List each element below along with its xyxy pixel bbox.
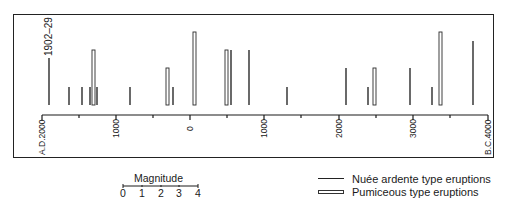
bar <box>373 68 376 105</box>
single-line-swatch-icon <box>318 178 344 179</box>
bar <box>166 68 169 105</box>
legend-label-nuee: Nuée ardente type eruptions <box>352 172 491 186</box>
tick-label-0: 0 <box>185 126 195 131</box>
magnitude-tick-2: 2 <box>158 187 164 199</box>
tick-label-bc4000: B.C.4000 <box>483 119 493 155</box>
magnitude-scale: Magnitude 0 1 2 3 4 <box>120 172 201 199</box>
legend-label-pumiceous: Pumiceous type eruptions <box>352 185 479 199</box>
tick-label-bc2000: 2000 <box>334 119 344 138</box>
tick-label-ad1000: 1000 <box>111 119 121 138</box>
magnitude-tick-3: 3 <box>176 187 182 199</box>
legend-item-nuee: Nuée ardente type eruptions <box>318 172 491 185</box>
magnitude-title: Magnitude <box>134 172 183 184</box>
legend-item-pumiceous: Pumiceous type eruptions <box>318 185 491 198</box>
bar <box>92 50 95 105</box>
series-pumiceous <box>92 32 442 105</box>
bar <box>225 50 228 105</box>
x-axis-tick-labels: A.D.2000 1000 0 1000 2000 3000 B.C.4000 <box>37 119 493 155</box>
tick-label-ad2000: A.D.2000 <box>37 119 47 155</box>
magnitude-tick-4: 4 <box>195 187 201 199</box>
bar <box>193 32 196 105</box>
magnitude-tick-1: 1 <box>139 187 145 199</box>
double-line-swatch-icon <box>318 190 344 194</box>
tick-label-bc3000: 3000 <box>408 119 418 138</box>
magnitude-tick-0: 0 <box>120 187 126 199</box>
annotation-1902-29: 1902–29 <box>43 17 54 56</box>
legend: Nuée ardente type eruptions Pumiceous ty… <box>318 172 491 198</box>
series-nuee-ardente <box>49 41 473 105</box>
bar <box>439 32 442 105</box>
tick-label-bc1000: 1000 <box>259 119 269 138</box>
